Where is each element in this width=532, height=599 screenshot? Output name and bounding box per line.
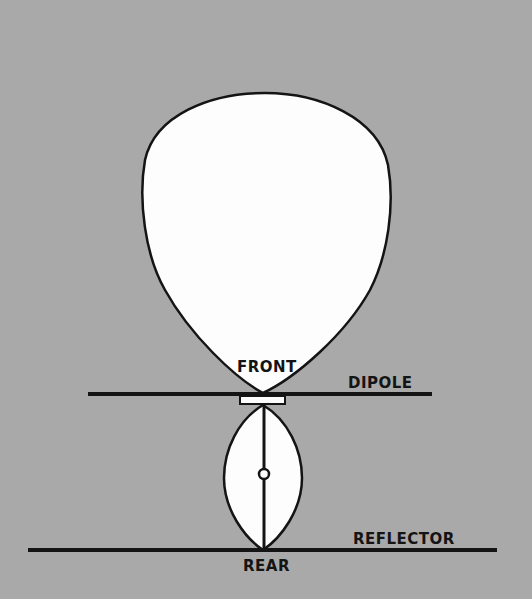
feed-box — [240, 396, 285, 404]
reflector-label: REFLECTOR — [353, 530, 455, 548]
rear-label: REAR — [243, 557, 290, 575]
dipole-label: DIPOLE — [348, 374, 413, 392]
front-lobe — [142, 93, 390, 393]
antenna-pattern-diagram: FRONT DIPOLE REAR REFLECTOR — [0, 0, 532, 599]
front-label: FRONT — [237, 358, 297, 376]
center-point — [259, 469, 269, 479]
